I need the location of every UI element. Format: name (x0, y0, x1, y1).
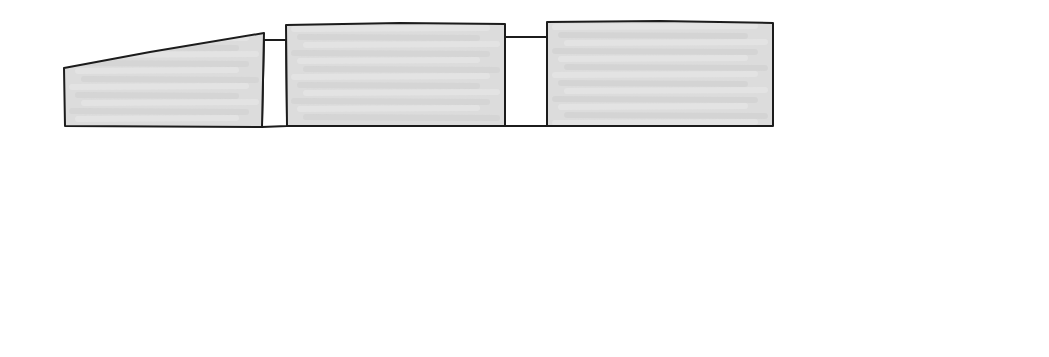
mass-right (547, 21, 773, 126)
massing-sketch (0, 0, 1049, 357)
building-mass-group (64, 21, 773, 127)
link-left-center (262, 40, 287, 127)
mass-center (286, 23, 505, 126)
mass-left-sloped (64, 33, 264, 127)
link-center-right (505, 37, 547, 126)
marker-shading (555, 26, 765, 123)
